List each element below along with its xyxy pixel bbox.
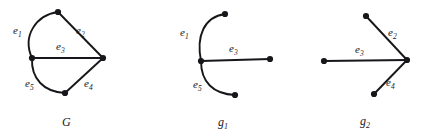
vertex-bottom <box>62 90 68 96</box>
graph-panel-g2: e2 e3 e4 g2 <box>285 0 430 138</box>
vertex-top <box>55 9 61 15</box>
vertex-top <box>222 11 228 17</box>
edge-e1-curve <box>29 12 58 58</box>
vertex-top <box>363 13 369 19</box>
edge-label-e2: e2 <box>76 25 85 36</box>
graph-g1-drawing <box>150 0 290 110</box>
edge-e5-curve <box>32 58 65 93</box>
graph-panel-g1: e1 e3 e5 g1 <box>150 0 290 138</box>
edge-e3-line <box>201 59 270 61</box>
graph-panel-G: e1 e2 e3 e4 e5 G <box>0 0 150 138</box>
edge-label-e5: e5 <box>25 78 34 89</box>
graph-g2-drawing <box>285 0 430 110</box>
vertex-center <box>198 58 204 64</box>
edge-label-e1: e1 <box>180 27 189 38</box>
vertex-right <box>100 55 106 61</box>
edge-e5-curve <box>201 61 235 95</box>
edge-e2-line <box>366 16 407 60</box>
edge-label-e2: e2 <box>388 27 397 38</box>
caption-G: G <box>62 116 71 128</box>
edge-label-e3: e3 <box>229 43 238 54</box>
vertex-left <box>321 58 327 64</box>
edge-label-e4: e4 <box>84 78 93 89</box>
graph-G-drawing <box>0 0 150 110</box>
edge-label-e5: e5 <box>193 79 202 90</box>
edge-label-e3: e3 <box>56 41 65 52</box>
vertex-hub <box>404 57 410 63</box>
edge-label-e1: e1 <box>13 25 22 36</box>
edge-label-e3: e3 <box>355 44 364 55</box>
vertex-right <box>267 56 273 62</box>
edge-e3-line <box>324 60 407 61</box>
vertex-bottom <box>232 92 238 98</box>
caption-g1: g1 <box>218 116 228 128</box>
vertex-left <box>29 55 35 61</box>
edge-e1-curve <box>200 14 225 61</box>
figure-root: e1 e2 e3 e4 e5 G e1 e3 e5 g1 <box>0 0 430 138</box>
edge-label-e4: e4 <box>386 77 395 88</box>
caption-g2: g2 <box>360 115 370 127</box>
vertex-bottom <box>371 91 377 97</box>
